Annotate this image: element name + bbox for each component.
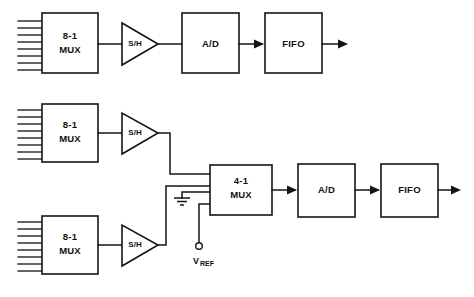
block-fifo-top-label: FIFO [282, 38, 304, 49]
block-mux-mid-label-line2: MUX [59, 133, 81, 144]
channel-3-input-lines [18, 222, 42, 271]
channel-1-input-lines [18, 21, 42, 70]
channel-2-group: 8-1 MUX S/H [18, 104, 210, 174]
block-mux-bot-label-line2: MUX [59, 245, 81, 256]
vref-label-main: V [193, 256, 199, 266]
block-mux-top-label-line1: 8-1 [63, 30, 78, 41]
wire-vref-to-mux4-input4 [199, 204, 210, 243]
block-sh-bot-label: S/H [128, 240, 142, 249]
block-diagram-canvas: 8-1 MUX S/H A/D FIFO [0, 0, 474, 297]
arrow-adc-bottom-to-fifo-bottom [370, 186, 380, 195]
block-sh-mid-label: S/H [128, 128, 142, 137]
arrow-fifo-bottom-output [451, 186, 461, 195]
block-adc-bottom-label: A/D [318, 184, 335, 195]
block-mux-4to1-label-line1: 4-1 [234, 175, 249, 186]
block-sh-top-label: S/H [128, 39, 142, 48]
vref-open-circle[interactable] [196, 243, 203, 250]
arrow-adc-top-to-fifo-top [254, 40, 264, 49]
ground-symbol [174, 192, 210, 205]
block-fifo-bottom-label: FIFO [398, 184, 420, 195]
block-mux-bot-label-line1: 8-1 [63, 231, 78, 242]
block-adc-top-label: A/D [202, 38, 219, 49]
shared-path-group: 4-1 MUX A/D FIFO [210, 164, 461, 217]
wire-sh-bot-to-mux4-input2 [158, 186, 210, 245]
vref-label-sub: REF [200, 260, 215, 267]
channel-1-group: 8-1 MUX S/H A/D FIFO [18, 13, 348, 73]
arrow-fifo-top-output [338, 40, 348, 49]
block-mux-4to1-label-line2: MUX [230, 189, 252, 200]
arrow-mux4-to-adc-bottom [287, 186, 297, 195]
channel-2-input-lines [18, 110, 42, 159]
block-mux-top-label-line2: MUX [59, 44, 81, 55]
wire-ground-to-mux4-input3 [182, 192, 210, 198]
wire-sh-mid-to-mux4-input1 [158, 133, 210, 174]
channel-3-group: 8-1 MUX S/H [18, 186, 210, 274]
block-diagram-svg: 8-1 MUX S/H A/D FIFO [0, 0, 474, 297]
block-mux-mid-label-line1: 8-1 [63, 119, 78, 130]
